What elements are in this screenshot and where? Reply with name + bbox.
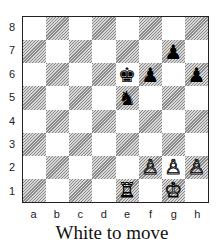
- square-d2[interactable]: [92, 156, 115, 179]
- square-a2[interactable]: [23, 156, 46, 179]
- white-rook-icon[interactable]: ♖: [118, 180, 136, 200]
- square-d7[interactable]: [92, 40, 115, 63]
- square-c8[interactable]: [69, 17, 92, 40]
- black-pawn-icon[interactable]: ♟: [187, 65, 205, 85]
- square-b1[interactable]: [46, 179, 69, 202]
- square-c2[interactable]: [69, 156, 92, 179]
- square-b2[interactable]: [46, 156, 69, 179]
- square-f6[interactable]: ♟: [139, 63, 162, 86]
- rank-label: 6: [6, 68, 18, 80]
- rank-label: 1: [6, 185, 18, 197]
- rank-label: 7: [6, 44, 18, 56]
- square-c6[interactable]: [69, 63, 92, 86]
- square-c1[interactable]: [69, 179, 92, 202]
- square-b4[interactable]: [46, 110, 69, 133]
- black-pawn-icon[interactable]: ♟: [141, 65, 159, 85]
- black-king-icon[interactable]: ♚: [118, 65, 136, 85]
- rank-label: 4: [6, 115, 18, 127]
- white-pawn-icon[interactable]: ♙: [141, 157, 159, 177]
- square-e4[interactable]: [116, 110, 139, 133]
- square-a7[interactable]: [23, 40, 46, 63]
- square-d6[interactable]: [92, 63, 115, 86]
- black-pawn-icon[interactable]: ♟: [164, 42, 182, 62]
- square-b5[interactable]: [46, 86, 69, 109]
- square-b7[interactable]: [46, 40, 69, 63]
- square-g2[interactable]: ♙: [162, 156, 185, 179]
- file-label: e: [116, 208, 139, 220]
- square-d4[interactable]: [92, 110, 115, 133]
- file-label: c: [69, 208, 92, 220]
- square-e6[interactable]: ♚: [116, 63, 139, 86]
- black-knight-icon[interactable]: ♞: [118, 88, 136, 108]
- square-g5[interactable]: [162, 86, 185, 109]
- square-h5[interactable]: [185, 86, 208, 109]
- square-e2[interactable]: [116, 156, 139, 179]
- white-pawn-icon[interactable]: ♙: [164, 157, 182, 177]
- square-e7[interactable]: [116, 40, 139, 63]
- file-label: f: [139, 208, 162, 220]
- square-f7[interactable]: [139, 40, 162, 63]
- square-h7[interactable]: [185, 40, 208, 63]
- square-g1[interactable]: ♔: [162, 179, 185, 202]
- file-label: h: [186, 208, 209, 220]
- square-d8[interactable]: [92, 17, 115, 40]
- square-a6[interactable]: [23, 63, 46, 86]
- square-e8[interactable]: [116, 17, 139, 40]
- square-e3[interactable]: [116, 133, 139, 156]
- square-e5[interactable]: ♞: [116, 86, 139, 109]
- rank-label: 8: [6, 21, 18, 33]
- square-b6[interactable]: [46, 63, 69, 86]
- square-h8[interactable]: [185, 17, 208, 40]
- square-a5[interactable]: [23, 86, 46, 109]
- square-c3[interactable]: [69, 133, 92, 156]
- square-g7[interactable]: ♟: [162, 40, 185, 63]
- square-a1[interactable]: [23, 179, 46, 202]
- square-e1[interactable]: ♖: [116, 179, 139, 202]
- file-label: d: [92, 208, 115, 220]
- square-d3[interactable]: [92, 133, 115, 156]
- square-c5[interactable]: [69, 86, 92, 109]
- square-f3[interactable]: [139, 133, 162, 156]
- square-g6[interactable]: [162, 63, 185, 86]
- square-h6[interactable]: ♟: [185, 63, 208, 86]
- square-f4[interactable]: [139, 110, 162, 133]
- square-f8[interactable]: [139, 17, 162, 40]
- square-a3[interactable]: [23, 133, 46, 156]
- square-h1[interactable]: [185, 179, 208, 202]
- rank-label: 5: [6, 91, 18, 103]
- square-c7[interactable]: [69, 40, 92, 63]
- square-f5[interactable]: [139, 86, 162, 109]
- side-to-move-caption: White to move: [0, 222, 224, 244]
- square-g4[interactable]: [162, 110, 185, 133]
- file-label: a: [22, 208, 45, 220]
- white-king-icon[interactable]: ♔: [164, 180, 182, 200]
- chess-board: ♟♚♟♟♞♙♙♙♖♔: [22, 16, 209, 203]
- square-g8[interactable]: [162, 17, 185, 40]
- square-f2[interactable]: ♙: [139, 156, 162, 179]
- square-b8[interactable]: [46, 17, 69, 40]
- square-d5[interactable]: [92, 86, 115, 109]
- square-a4[interactable]: [23, 110, 46, 133]
- square-b3[interactable]: [46, 133, 69, 156]
- rank-label: 3: [6, 138, 18, 150]
- file-label: b: [45, 208, 68, 220]
- square-h3[interactable]: [185, 133, 208, 156]
- square-f1[interactable]: [139, 179, 162, 202]
- white-pawn-icon[interactable]: ♙: [187, 157, 205, 177]
- file-label: g: [162, 208, 185, 220]
- rank-label: 2: [6, 161, 18, 173]
- square-a8[interactable]: [23, 17, 46, 40]
- square-g3[interactable]: [162, 133, 185, 156]
- square-h4[interactable]: [185, 110, 208, 133]
- square-d1[interactable]: [92, 179, 115, 202]
- square-h2[interactable]: ♙: [185, 156, 208, 179]
- square-c4[interactable]: [69, 110, 92, 133]
